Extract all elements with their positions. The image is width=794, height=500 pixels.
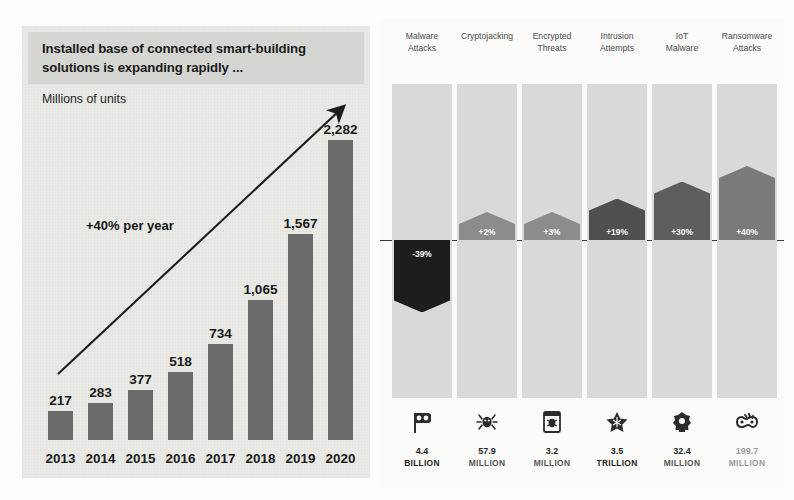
screenshot-root: Installed base of connected smart-buildi… <box>0 0 794 500</box>
x-axis-tick-2017: 2017 <box>200 451 241 466</box>
x-axis-tick-2013: 2013 <box>40 451 81 466</box>
bar-2014 <box>88 403 113 440</box>
smart-building-chart-panel: Installed base of connected smart-buildi… <box>22 26 370 478</box>
column-band <box>717 84 777 398</box>
threat-column-6: Ransomware Attacks+40%199.7MILLION <box>717 18 777 488</box>
x-axis-tick-2014: 2014 <box>80 451 121 466</box>
column-band <box>457 84 517 398</box>
threat-bar-value-label: +30% <box>654 227 710 237</box>
bar-chart-plot-area: 217201328320143772015518201673420171,065… <box>22 26 370 478</box>
cyber-threat-chart-panel: Malware Attacks-39%4.4BILLIONCryptojacki… <box>380 18 784 488</box>
threat-column-3: Encrypted Threats+3%3.2MILLION <box>522 18 582 488</box>
document-bug-icon <box>522 402 582 442</box>
bar-2016 <box>168 372 193 440</box>
column-band <box>587 84 647 398</box>
bar-2018 <box>248 300 273 440</box>
ransomware-lock-icon <box>717 402 777 442</box>
threat-column-5: IoT Malware+30%32.4MILLION <box>652 18 712 488</box>
bar-2013 <box>48 411 73 440</box>
star-badge-icon <box>587 402 647 442</box>
column-band <box>652 84 712 398</box>
x-axis-tick-2016: 2016 <box>160 451 201 466</box>
bar-2015 <box>128 390 153 440</box>
threat-stat-value: 199.7 <box>707 446 787 456</box>
threat-bar-value-label: +19% <box>589 227 645 237</box>
malware-flag-icon <box>392 402 452 442</box>
x-axis-tick-2019: 2019 <box>280 451 321 466</box>
bar-2017 <box>208 344 233 440</box>
threat-bar-value-label: +3% <box>524 227 580 237</box>
iot-device-icon <box>652 402 712 442</box>
column-band <box>522 84 582 398</box>
bar-2020 <box>328 140 353 440</box>
bar-value-label: 1,567 <box>276 216 325 231</box>
threat-column-2: Cryptojacking+2%57.9MILLION <box>457 18 517 488</box>
x-axis-tick-2020: 2020 <box>320 451 361 466</box>
bar-value-label: 377 <box>116 372 165 387</box>
threat-column-1: Malware Attacks-39%4.4BILLION <box>392 18 452 488</box>
threat-bar-value-label: +40% <box>719 227 775 237</box>
growth-rate-annotation: +40% per year <box>86 218 174 233</box>
x-axis-tick-2015: 2015 <box>120 451 161 466</box>
spider-bug-icon <box>457 402 517 442</box>
bar-value-label: 1,065 <box>236 282 285 297</box>
threat-stat-unit: MILLION <box>707 458 787 468</box>
bar-2019 <box>288 234 313 440</box>
threat-bar-value-label: +2% <box>459 227 515 237</box>
threat-column-4: Intrusion Attempts+19%3.5TRILLION <box>587 18 647 488</box>
bar-value-label: 2,282 <box>316 122 365 137</box>
bar-value-label: 518 <box>156 354 205 369</box>
column-header-label: Ransomware Attacks <box>707 30 787 55</box>
x-axis-tick-2018: 2018 <box>240 451 281 466</box>
threat-bar-value-label: -39% <box>394 249 450 259</box>
bar-value-label: 734 <box>196 326 245 341</box>
